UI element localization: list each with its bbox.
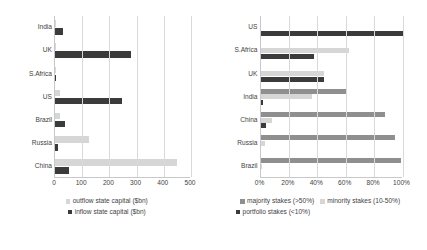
legend-item[interactable]: minority stakes (10-50%): [320, 198, 427, 205]
category-label-brazil: Brazil: [0, 117, 52, 124]
x-tick-label: 80%: [366, 180, 379, 187]
bar: [261, 77, 325, 82]
bar: [261, 164, 262, 169]
legend-swatch-icon: [68, 210, 73, 215]
category-label-india: India: [214, 94, 258, 101]
dual-bar-chart-figure: IndiaUKS.AfricaUSBrazilRussiaChina 01002…: [0, 0, 427, 250]
x-tick-label: 0: [52, 180, 56, 187]
x-tick-label: 20%: [281, 180, 294, 187]
legend-label: outflow state capital ($bn): [73, 198, 148, 205]
category-label-uk: UK: [0, 47, 52, 54]
bar-row: S.Africa: [261, 39, 402, 62]
legend-label: majority stakes (>50%): [247, 198, 314, 205]
right-plot-area: USS.AfricaUKIndiaChinaRussiaBrazil: [260, 16, 402, 178]
left-bar-rows: IndiaUKS.AfricaUSBrazilRussiaChina: [55, 16, 190, 177]
bar: [55, 144, 58, 151]
bar: [261, 123, 267, 128]
bar-row: China: [261, 109, 402, 132]
gridline: [403, 16, 404, 177]
bar: [55, 67, 56, 74]
legend-label: portfolio stakes (<10%): [243, 209, 311, 216]
legend-swatch-icon: [236, 210, 241, 215]
left-plot-area: IndiaUKS.AfricaUSBrazilRussiaChina: [54, 16, 190, 178]
gridline: [374, 16, 375, 177]
right-bar-rows: USS.AfricaUKIndiaChinaRussiaBrazil: [261, 16, 402, 177]
legend-label: minority stakes (10-50%): [327, 198, 400, 205]
bar-row: Brazil: [261, 155, 402, 178]
bar-row: Brazil: [55, 109, 190, 132]
gridline: [317, 16, 318, 177]
bar: [55, 28, 63, 35]
bar: [55, 43, 56, 50]
bar-row: India: [261, 85, 402, 108]
bar-row: S.Africa: [55, 62, 190, 85]
bar: [261, 141, 265, 146]
bar: [55, 20, 56, 27]
bar: [55, 159, 177, 166]
x-tick-label: 300: [130, 180, 141, 187]
bar: [55, 167, 69, 174]
bar: [261, 54, 315, 59]
bar-row: India: [55, 16, 190, 39]
right-chart-panel: USS.AfricaUKIndiaChinaRussiaBrazil 0%20%…: [214, 0, 427, 250]
right-legend: majority stakes (>50%)minority stakes (1…: [214, 198, 427, 215]
gridline: [289, 16, 290, 177]
bar: [261, 112, 386, 117]
bar: [55, 98, 122, 105]
legend-swatch-icon: [320, 199, 325, 204]
bar: [55, 51, 131, 58]
x-tick-label: 100: [76, 180, 87, 187]
legend-item[interactable]: majority stakes (>50%): [214, 198, 321, 205]
left-legend: outflow state capital ($bn)inflow state …: [0, 198, 214, 215]
bar: [261, 31, 403, 36]
bar-row: China: [55, 155, 190, 178]
right-x-axis-ticks: 0%20%40%60%80%100%: [260, 180, 402, 192]
category-label-russia: Russia: [214, 140, 258, 147]
category-label-s-africa: S.Africa: [214, 47, 258, 54]
legend-item[interactable]: portfolio stakes (<10%): [214, 209, 427, 216]
legend-swatch-icon: [66, 199, 71, 204]
legend-item[interactable]: outflow state capital ($bn): [0, 198, 214, 205]
x-tick-label: 500: [184, 180, 195, 187]
legend-swatch-icon: [240, 199, 245, 204]
bar-row: Russia: [55, 132, 190, 155]
category-label-india: India: [0, 24, 52, 31]
category-label-china: China: [0, 163, 52, 170]
bar: [55, 121, 65, 128]
gridline: [191, 16, 192, 177]
bar: [55, 75, 56, 82]
x-tick-label: 40%: [310, 180, 323, 187]
category-label-s-africa: S.Africa: [0, 71, 52, 78]
bar: [261, 48, 349, 53]
legend-item[interactable]: inflow state capital ($bn): [0, 209, 214, 216]
x-tick-label: 400: [157, 180, 168, 187]
category-label-brazil: Brazil: [214, 163, 258, 170]
bar: [55, 113, 60, 120]
left-chart-panel: IndiaUKS.AfricaUSBrazilRussiaChina 01002…: [0, 0, 214, 250]
bar-row: UK: [55, 39, 190, 62]
bar: [55, 90, 60, 97]
gridline: [109, 16, 110, 177]
category-label-china: China: [214, 117, 258, 124]
bar: [55, 136, 89, 143]
category-label-uk: UK: [214, 71, 258, 78]
bar-row: US: [261, 16, 402, 39]
left-x-axis-ticks: 0100200300400500: [54, 180, 190, 192]
x-tick-label: 100%: [393, 180, 410, 187]
bar: [261, 135, 396, 140]
gridline: [82, 16, 83, 177]
bar: [261, 118, 272, 123]
category-label-us: US: [214, 24, 258, 31]
x-tick-label: 0%: [255, 180, 265, 187]
category-label-us: US: [0, 94, 52, 101]
x-tick-label: 200: [103, 180, 114, 187]
bar: [261, 158, 402, 163]
bar: [261, 94, 312, 99]
gridline: [164, 16, 165, 177]
bar-row: US: [55, 85, 190, 108]
bar: [261, 89, 346, 94]
gridline: [137, 16, 138, 177]
bar-row: Russia: [261, 132, 402, 155]
bar: [261, 71, 325, 76]
bar-row: UK: [261, 62, 402, 85]
